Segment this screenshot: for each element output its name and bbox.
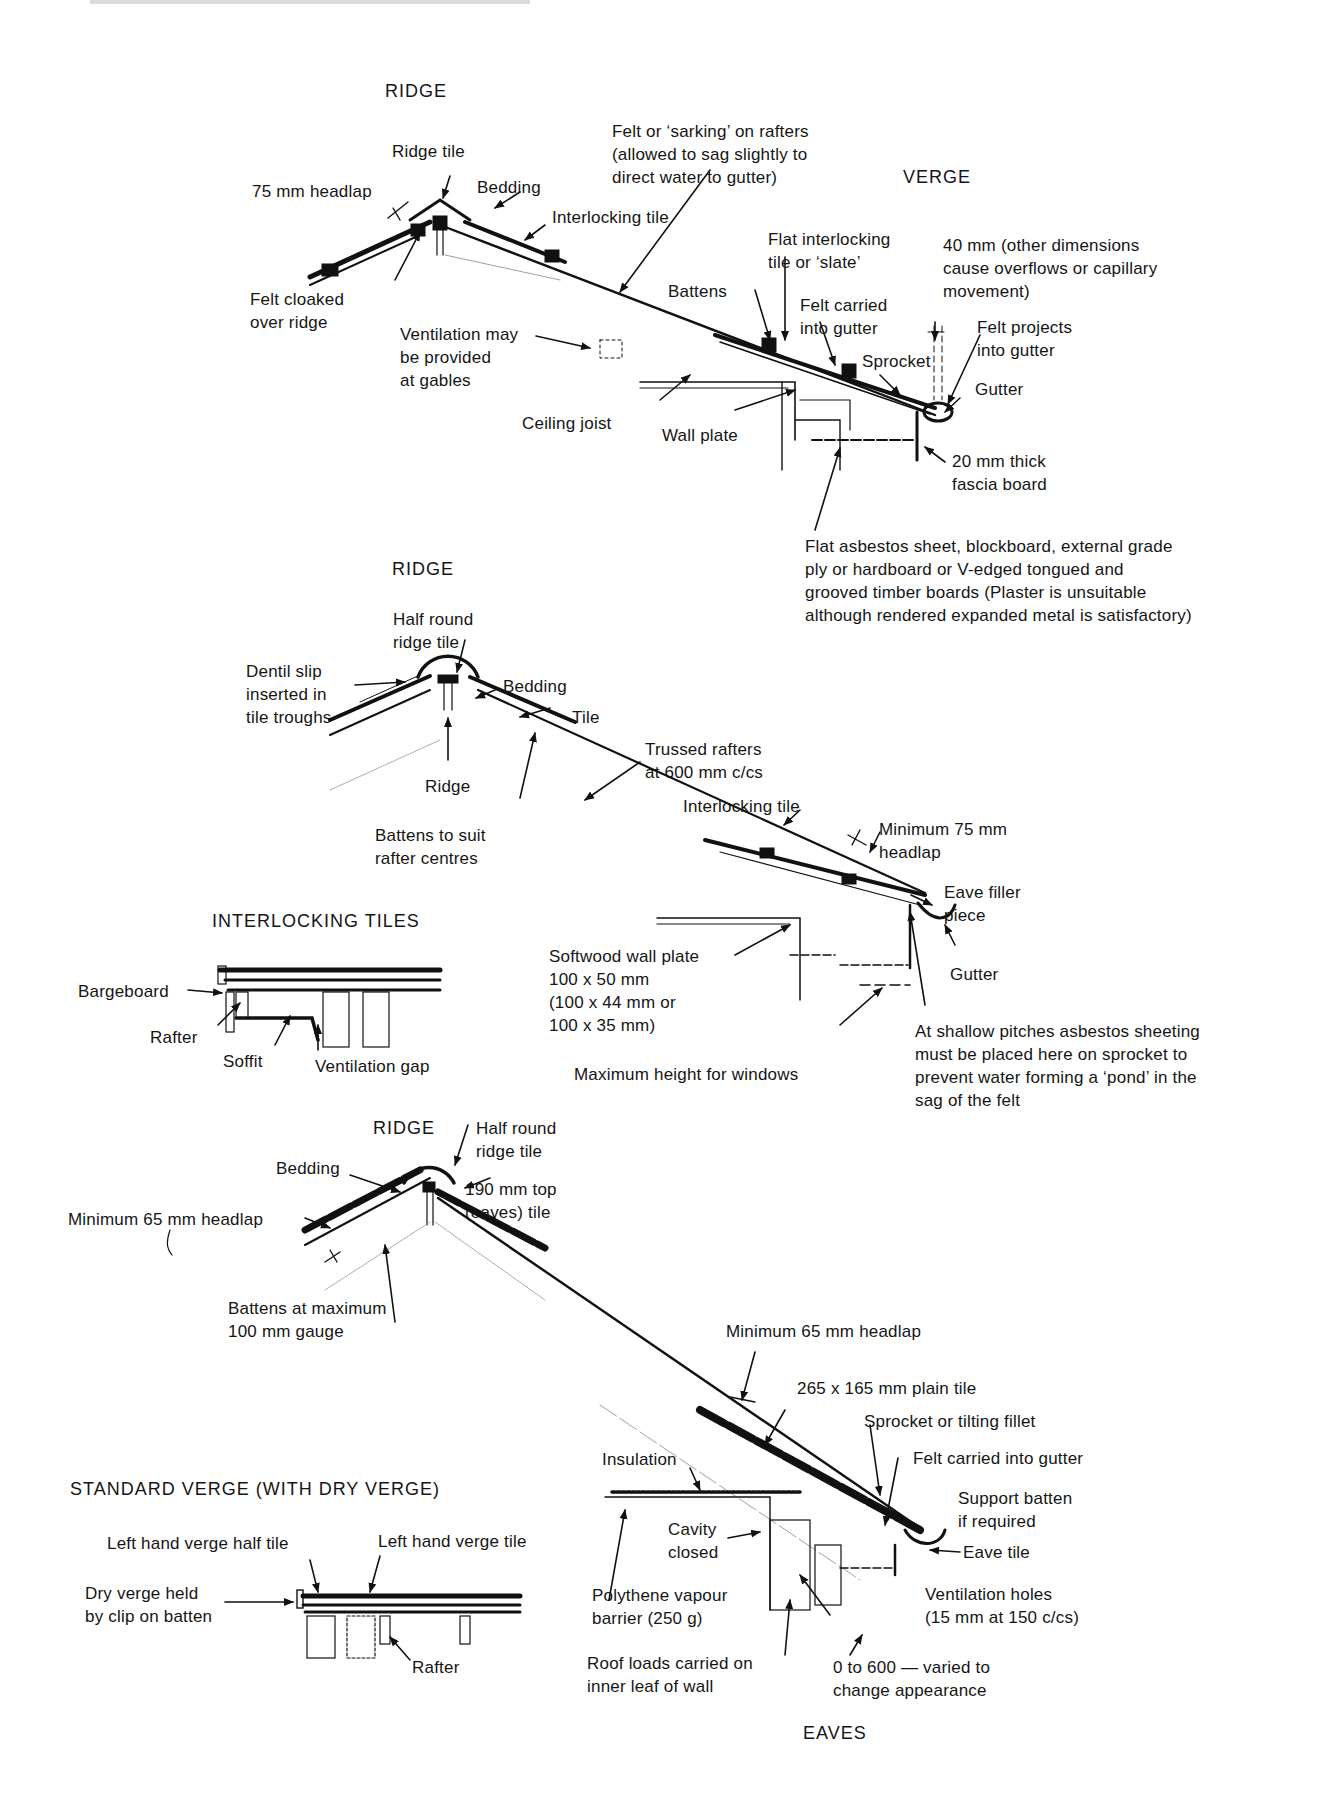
label-ridge-tile: Ridge tile xyxy=(392,140,465,163)
label-190mm-top-tile: 190 mm top (eaves) tile xyxy=(465,1178,557,1224)
label-flat-interlocking-tile: Flat interlocking tile or ‘slate’ xyxy=(768,228,890,274)
label-support-batten: Support batten if required xyxy=(958,1487,1072,1533)
label-bedding: Bedding xyxy=(477,176,541,199)
label-sprocket-tilting-fillet: Sprocket or tilting fillet xyxy=(864,1410,1036,1433)
label-gutter: Gutter xyxy=(975,378,1023,401)
label-dentil-slip: Dentil slip inserted in tile troughs xyxy=(246,660,332,729)
label-bedding: Bedding xyxy=(276,1157,340,1180)
label-soffit: Soffit xyxy=(223,1050,263,1073)
standard-verge-detail xyxy=(297,1590,520,1658)
label-felt-sarking: Felt or ‘sarking’ on rafters (allowed to… xyxy=(612,120,809,189)
label-75mm-headlap: 75 mm headlap xyxy=(252,180,372,203)
label-interlocking-tile: Interlocking tile xyxy=(683,795,800,818)
label-eave-tile: Eave tile xyxy=(963,1541,1030,1564)
label-sprocket: Sprocket xyxy=(862,350,931,373)
label-rafter: Rafter xyxy=(150,1026,198,1049)
section-2-ridge-title: RIDGE xyxy=(392,558,454,580)
label-felt-carried-into-gutter: Felt carried into gutter xyxy=(800,294,887,340)
label-max-height-windows: Maximum height for windows xyxy=(574,1063,798,1086)
interlocking-verge-detail xyxy=(218,966,440,1047)
label-roof-loads: Roof loads carried on inner leaf of wall xyxy=(587,1652,753,1698)
label-half-round-ridge-tile: Half round ridge tile xyxy=(476,1117,556,1163)
label-bargeboard: Bargeboard xyxy=(78,980,169,1003)
label-interlocking-tile: Interlocking tile xyxy=(552,206,669,229)
label-ridge: Ridge xyxy=(425,775,470,798)
label-shallow-pitch-note: At shallow pitches asbestos sheeting mus… xyxy=(915,1020,1200,1112)
label-ventilation-gables: Ventilation may be provided at gables xyxy=(400,323,518,392)
label-soffit-materials-note: Flat asbestos sheet, blockboard, externa… xyxy=(805,535,1192,627)
label-ventilation-gap: Ventilation gap xyxy=(315,1055,430,1078)
label-insulation: Insulation xyxy=(602,1448,677,1471)
label-ceiling-joist: Ceiling joist xyxy=(522,412,612,435)
label-verge-half-tile: Left hand verge half tile xyxy=(107,1532,289,1555)
eaves-title: EAVES xyxy=(803,1722,867,1744)
label-bedding: Bedding xyxy=(503,675,567,698)
label-minimum-75mm-headlap: Minimum 75 mm headlap xyxy=(879,818,1007,864)
label-fascia-board: 20 mm thick fascia board xyxy=(952,450,1047,496)
label-minimum-65mm-headlap: Minimum 65 mm headlap xyxy=(726,1320,921,1343)
label-gutter: Gutter xyxy=(950,963,998,986)
label-plain-tile-size: 265 x 165 mm plain tile xyxy=(797,1377,976,1400)
label-cavity-closed: Cavity closed xyxy=(668,1518,718,1564)
label-polythene-vapour-barrier: Polythene vapour barrier (250 g) xyxy=(592,1584,728,1630)
label-tile: Tile xyxy=(572,706,600,729)
label-felt-projects: Felt projects into gutter xyxy=(977,316,1072,362)
label-battens-rafter-centres: Battens to suit rafter centres xyxy=(375,824,486,870)
label-wall-plate: Wall plate xyxy=(662,424,738,447)
label-eave-filler-piece: Eave filler piece xyxy=(944,881,1021,927)
label-battens: Battens xyxy=(668,280,727,303)
label-felt-carried-into-gutter: Felt carried into gutter xyxy=(913,1447,1083,1470)
label-rafter: Rafter xyxy=(412,1656,460,1679)
label-overhang-note: 0 to 600 — varied to change appearance xyxy=(833,1656,990,1702)
label-felt-cloaked: Felt cloaked over ridge xyxy=(250,288,344,334)
label-trussed-rafters: Trussed rafters at 600 mm c/cs xyxy=(645,738,763,784)
interlocking-tiles-title: INTERLOCKING TILES xyxy=(212,910,420,932)
label-half-round-ridge-tile: Half round ridge tile xyxy=(393,608,473,654)
section-1-verge-title: VERGE xyxy=(903,166,971,188)
label-ventilation-holes: Ventilation holes (15 mm at 150 c/cs) xyxy=(925,1583,1079,1629)
label-softwood-wall-plate: Softwood wall plate 100 x 50 mm (100 x 4… xyxy=(549,945,699,1037)
section-1-ridge-title: RIDGE xyxy=(385,80,447,102)
label-dry-verge-clip: Dry verge held by clip on batten xyxy=(85,1582,212,1628)
label-battens-gauge: Battens at maximum 100 mm gauge xyxy=(228,1297,387,1343)
label-40mm-note: 40 mm (other dimensions cause overflows … xyxy=(943,234,1157,303)
standard-verge-title: STANDARD VERGE (WITH DRY VERGE) xyxy=(70,1478,440,1500)
label-minimum-65mm-headlap-ridge: Minimum 65 mm headlap xyxy=(68,1208,263,1231)
label-verge-tile: Left hand verge tile xyxy=(378,1530,527,1553)
section-3-ridge-title: RIDGE xyxy=(373,1117,435,1139)
